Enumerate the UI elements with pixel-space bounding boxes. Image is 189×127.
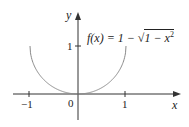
y-tick-label-1: 1 xyxy=(67,41,73,52)
x-tick-label-1: 1 xyxy=(122,99,128,110)
origin-label: 0 xyxy=(68,98,74,109)
formula-lhs: f(x) = 1 − xyxy=(87,31,138,45)
y-axis-label: y xyxy=(66,9,71,21)
sqrt-sign-icon: √ xyxy=(138,31,145,45)
function-formula: f(x) = 1 − √1 − x2 xyxy=(87,29,174,44)
x-axis-label: x xyxy=(172,99,177,111)
sqrt-radicand: 1 − x2 xyxy=(144,29,173,44)
x-axis-arrow-icon xyxy=(173,91,181,97)
function-plot: y x 1 −1 1 0 f(x) = 1 − √1 − x2 xyxy=(0,0,189,127)
y-axis-arrow-icon xyxy=(75,12,81,20)
x-tick-label-neg1: −1 xyxy=(21,99,33,110)
